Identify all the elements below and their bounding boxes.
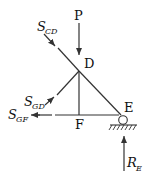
member-de	[79, 71, 121, 115]
force-arrows	[31, 23, 124, 171]
label-p: P	[74, 8, 83, 23]
member-cd	[58, 48, 79, 71]
ground-hatch-icon	[109, 125, 136, 130]
label-r-e: R E	[126, 155, 142, 173]
label-node-f: F	[75, 117, 84, 132]
label-s-gf: S GF	[8, 107, 28, 124]
svg-text:E: E	[135, 164, 142, 173]
truss-diagram: P D E F S CD S GD S GF R E	[0, 0, 145, 178]
truss-members	[38, 48, 121, 115]
label-node-e: E	[124, 100, 134, 115]
member-gd	[57, 71, 79, 95]
svg-text:GF: GF	[16, 115, 28, 124]
label-node-d: D	[84, 56, 94, 71]
roller-icon	[119, 116, 128, 125]
label-s-gd: S GD	[24, 94, 45, 111]
label-s-cd: S CD	[37, 19, 58, 36]
svg-text:GD: GD	[32, 102, 45, 111]
arrow-s-gd	[45, 97, 54, 105]
roller-support	[109, 116, 137, 130]
svg-text:CD: CD	[45, 27, 58, 36]
